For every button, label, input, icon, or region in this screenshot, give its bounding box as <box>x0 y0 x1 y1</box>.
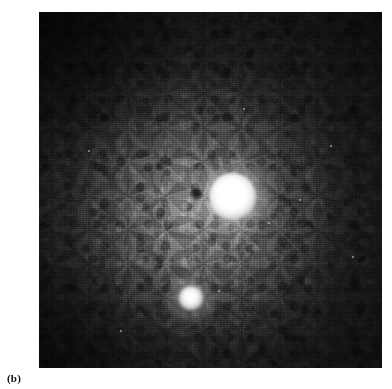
faint-speck <box>268 222 270 224</box>
faint-speck <box>352 256 354 258</box>
faint-speck <box>218 290 220 292</box>
figure-panel: (b) <box>0 0 392 389</box>
dark-spot-marker <box>190 188 203 199</box>
faint-speck <box>243 108 245 110</box>
faint-speck <box>88 150 90 152</box>
companion-source-core <box>179 286 203 310</box>
faint-speck <box>120 330 122 332</box>
faint-speck <box>330 145 332 147</box>
primary-nucleus-core <box>209 173 256 220</box>
figure-caption-label: (b) <box>7 372 21 384</box>
faint-speck <box>299 199 301 201</box>
astronomical-image-plate <box>39 12 382 368</box>
